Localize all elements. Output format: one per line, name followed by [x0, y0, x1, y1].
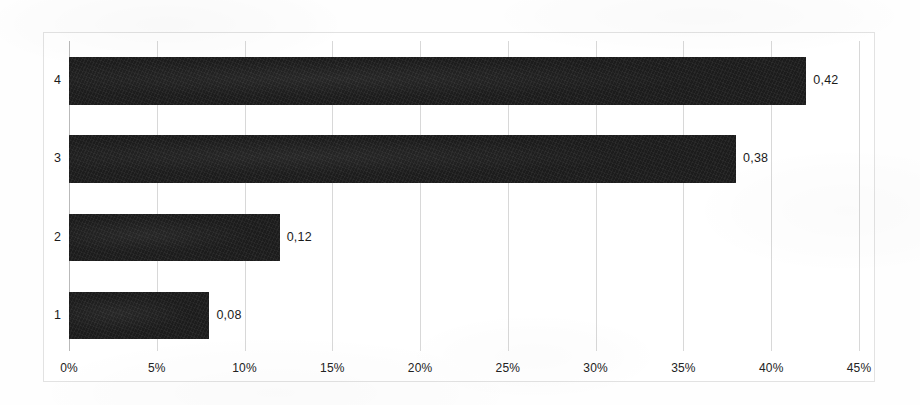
x-axis-tick-10pct: 10%	[232, 361, 257, 375]
x-axis-tick-45pct: 45%	[847, 361, 872, 375]
y-axis-label-2: 2	[43, 230, 61, 244]
bar-value-label-4: 0,42	[813, 73, 838, 87]
y-axis-label-1: 1	[43, 308, 61, 322]
bar-category-4[interactable]	[69, 57, 806, 105]
bar-value-label-2: 0,12	[287, 230, 312, 244]
x-axis-tick-20pct: 20%	[408, 361, 433, 375]
chart-plot-frame: 0,420,380,120,08 43210%5%10%15%20%25%30%…	[43, 32, 875, 382]
bar-category-1[interactable]	[69, 292, 209, 339]
x-axis-tick-35pct: 35%	[671, 361, 696, 375]
chart-plot-area: 0,420,380,120,08	[69, 41, 859, 351]
x-axis-tick-0pct: 0%	[60, 361, 78, 375]
x-axis-tick-5pct: 5%	[148, 361, 166, 375]
x-axis-tick-25pct: 25%	[496, 361, 521, 375]
bar-value-label-3: 0,38	[743, 151, 768, 165]
y-axis-label-4: 4	[43, 73, 61, 87]
y-axis-label-3: 3	[43, 151, 61, 165]
bar-value-label-1: 0,08	[216, 308, 241, 322]
x-axis-tick-15pct: 15%	[320, 361, 345, 375]
x-axis-tick-40pct: 40%	[759, 361, 784, 375]
chart-screenshot: 0,420,380,120,08 43210%5%10%15%20%25%30%…	[0, 0, 920, 405]
bar-category-2[interactable]	[69, 214, 280, 261]
x-axis-tick-30pct: 30%	[583, 361, 608, 375]
gridline-45pct	[859, 41, 860, 351]
bar-category-3[interactable]	[69, 135, 736, 183]
